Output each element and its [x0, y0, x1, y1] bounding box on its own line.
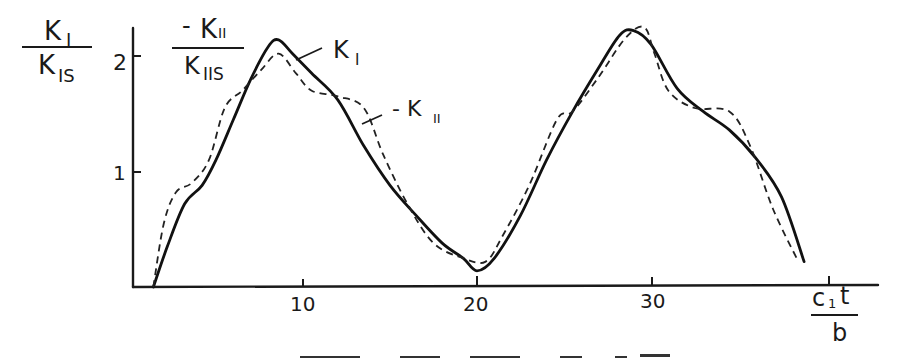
y-axis-label-kii: - K II K IIS [172, 12, 244, 84]
series-label-neg-kii: - K II [392, 96, 441, 126]
svg-text:K: K [44, 16, 62, 46]
svg-text:IIS: IIS [203, 64, 224, 84]
ki-leader-line [296, 48, 322, 60]
x-tick-label-20: 20 [463, 292, 488, 316]
x-tick-label-10: 10 [290, 292, 315, 316]
svg-text:K: K [200, 14, 218, 44]
svg-text:K: K [333, 36, 350, 64]
svg-text:II: II [218, 25, 226, 41]
svg-text:IS: IS [58, 65, 75, 86]
svg-text:K: K [184, 52, 201, 80]
series-ki-line [153, 30, 804, 287]
y-tick-label-1: 1 [113, 161, 126, 185]
series-neg-kii-line [153, 27, 797, 287]
x-axis-label: c 1 t b [811, 282, 858, 347]
x-axis [133, 285, 878, 287]
x-tick-label-30: 30 [640, 289, 665, 313]
svg-text:c: c [812, 284, 825, 312]
series-label-ki: K I [333, 36, 359, 69]
svg-text:-: - [182, 12, 191, 40]
svg-text:K: K [38, 50, 56, 80]
svg-text:t: t [840, 282, 849, 310]
svg-text:- K: - K [392, 96, 422, 121]
y-axis-label-ki: K I K IS [22, 16, 92, 86]
y-tick-label-2: 2 [113, 50, 127, 75]
svg-text:1: 1 [828, 296, 836, 311]
cropped-caption-fragment [300, 354, 670, 358]
svg-text:I: I [355, 51, 359, 69]
svg-text:II: II [433, 111, 441, 126]
stress-intensity-factor-chart: 2 1 10 20 30 K I K IS - K II K IIS c 1 t… [0, 0, 899, 361]
svg-text:b: b [832, 319, 847, 347]
